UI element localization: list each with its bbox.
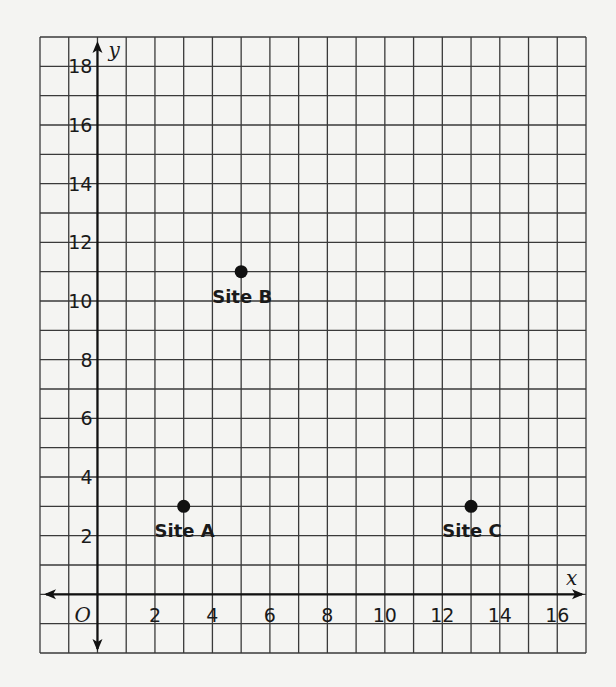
x-axis-label: x	[566, 566, 577, 590]
x-tick-label: 2	[149, 604, 161, 626]
y-tick-label: 18	[68, 55, 92, 77]
y-tick-label: 6	[80, 407, 92, 429]
coordinate-plane: xyO 24681012141624681012141618 Site ASit…	[0, 0, 616, 687]
data-points: Site ASite BSite C	[155, 265, 502, 541]
point-marker-icon	[177, 500, 190, 513]
x-tick-label: 16	[545, 604, 569, 626]
y-axis-label: y	[107, 38, 120, 62]
x-tick-label: 6	[264, 604, 276, 626]
y-tick-label: 16	[68, 114, 92, 136]
point-label: Site A	[155, 520, 215, 541]
x-tick-label: 10	[373, 604, 397, 626]
x-tick-label: 8	[321, 604, 333, 626]
y-tick-label: 14	[68, 173, 92, 195]
origin-label: O	[74, 603, 90, 627]
point-marker-icon	[465, 500, 478, 513]
x-tick-label: 4	[206, 604, 218, 626]
y-tick-label: 4	[80, 466, 92, 488]
point-marker-icon	[235, 265, 248, 278]
y-tick-label: 2	[80, 525, 92, 547]
x-tick-label: 12	[430, 604, 454, 626]
y-tick-label: 12	[68, 231, 92, 253]
point-label: Site B	[212, 286, 272, 307]
axes: xyO	[44, 38, 584, 651]
grid-lines	[40, 37, 586, 653]
x-tick-label: 14	[488, 604, 512, 626]
point-label: Site C	[442, 520, 501, 541]
y-tick-label: 10	[68, 290, 92, 312]
y-tick-label: 8	[80, 349, 92, 371]
